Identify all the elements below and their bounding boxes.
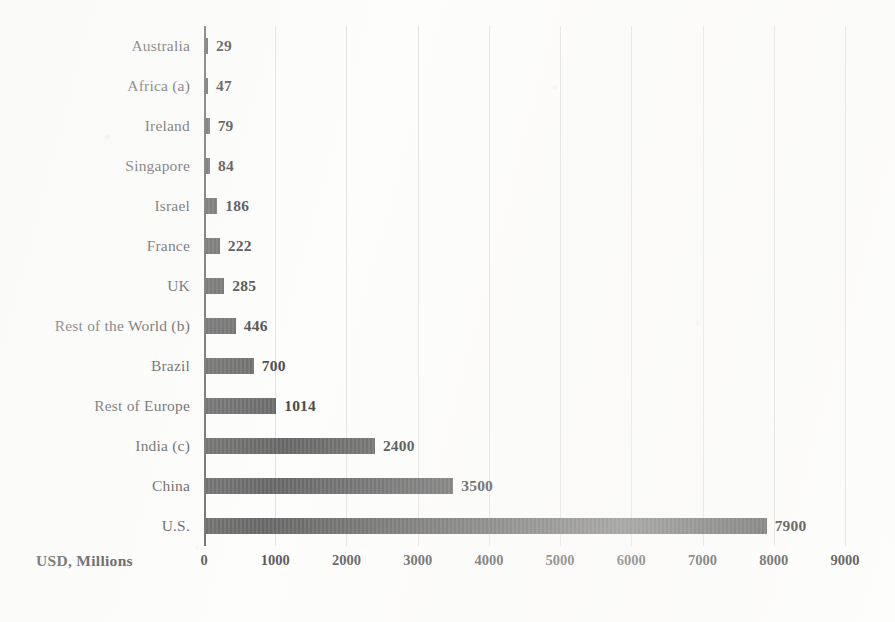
x-tick-label: 8000	[759, 552, 788, 569]
bar-value-label: 222	[228, 237, 252, 255]
bar	[204, 238, 220, 254]
bar-container: 29	[204, 26, 895, 66]
bar-container: 7900	[204, 506, 895, 546]
bar-container: 1014	[204, 386, 895, 426]
bar	[204, 478, 453, 494]
bar-value-label: 29	[216, 37, 232, 55]
bar-container: 84	[204, 146, 895, 186]
category-label: Israel	[0, 197, 204, 215]
bar-container: 285	[204, 266, 895, 306]
bar-container: 2400	[204, 426, 895, 466]
bar	[204, 278, 224, 294]
category-label: India (c)	[0, 437, 204, 455]
chart-page: Australia29Africa (a)47Ireland79Singapor…	[0, 0, 895, 622]
bar-row: UK285	[0, 266, 895, 306]
category-label: UK	[0, 277, 204, 295]
category-label: Rest of Europe	[0, 397, 204, 415]
bar	[204, 518, 767, 534]
category-label: Rest of the World (b)	[0, 317, 204, 335]
bar-value-label: 446	[244, 317, 268, 335]
bar-row: Brazil700	[0, 346, 895, 386]
bar-value-label: 285	[232, 277, 256, 295]
bar-container: 446	[204, 306, 895, 346]
x-tick-label: 9000	[831, 552, 860, 569]
x-tick-label: 7000	[688, 552, 717, 569]
bar-row: Australia29	[0, 26, 895, 66]
x-tick-label: 0	[200, 552, 207, 569]
category-label: Australia	[0, 37, 204, 55]
category-label: Brazil	[0, 357, 204, 375]
bar	[204, 398, 276, 414]
x-tick-label: 2000	[332, 552, 361, 569]
bar-container: 186	[204, 186, 895, 226]
bar-value-label: 3500	[461, 477, 493, 495]
bar-value-label: 186	[225, 197, 249, 215]
x-tick-label: 5000	[546, 552, 575, 569]
bar-row: Africa (a)47	[0, 66, 895, 106]
category-label: Singapore	[0, 157, 204, 175]
bar-row: U.S.7900	[0, 506, 895, 546]
category-label: China	[0, 477, 204, 495]
x-tick-label: 1000	[261, 552, 290, 569]
bar	[204, 318, 236, 334]
bar-container: 222	[204, 226, 895, 266]
bar-value-label: 7900	[775, 517, 807, 535]
category-label: U.S.	[0, 517, 204, 535]
bar-container: 3500	[204, 466, 895, 506]
category-label: Africa (a)	[0, 77, 204, 95]
bar-value-label: 2400	[383, 437, 415, 455]
bar-container: 47	[204, 66, 895, 106]
x-tick-label: 6000	[617, 552, 646, 569]
bar	[204, 438, 375, 454]
bar-container: 700	[204, 346, 895, 386]
bar-container: 79	[204, 106, 895, 146]
bar-row: India (c)2400	[0, 426, 895, 466]
bar-row: France222	[0, 226, 895, 266]
x-axis: 0100020003000400050006000700080009000	[204, 552, 845, 582]
bar-row: Singapore84	[0, 146, 895, 186]
x-axis-title: USD, Millions	[36, 552, 133, 570]
plot-area: Australia29Africa (a)47Ireland79Singapor…	[204, 26, 845, 546]
y-axis-line	[204, 26, 206, 546]
bar-row: Rest of the World (b)446	[0, 306, 895, 346]
x-tick-label: 4000	[474, 552, 503, 569]
category-label: France	[0, 237, 204, 255]
bar-row: Israel186	[0, 186, 895, 226]
bar-row: Rest of Europe1014	[0, 386, 895, 426]
bar-value-label: 1014	[284, 397, 316, 415]
x-tick-label: 3000	[403, 552, 432, 569]
bar-value-label: 700	[262, 357, 286, 375]
bar	[204, 358, 254, 374]
bar-value-label: 84	[218, 157, 234, 175]
bar-row: Ireland79	[0, 106, 895, 146]
bar-value-label: 47	[216, 77, 232, 95]
category-label: Ireland	[0, 117, 204, 135]
bar-value-label: 79	[218, 117, 234, 135]
bar-row: China3500	[0, 466, 895, 506]
